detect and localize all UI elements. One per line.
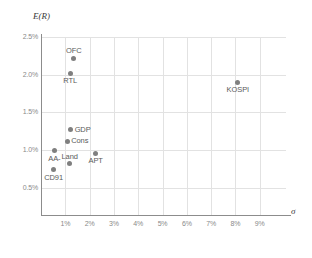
data-point[interactable] [71,56,76,61]
gridline-horizontal [41,112,286,113]
y-axis-tick-label: 0.5% [23,184,38,191]
data-point[interactable] [51,167,56,172]
x-axis-tick-label: 3% [102,220,126,227]
x-axis-tick-label: 4% [126,220,150,227]
data-point-label: RTL [63,76,77,85]
x-axis-line [41,215,291,216]
data-point[interactable] [235,80,240,85]
gridline-horizontal [41,188,286,189]
x-axis-tick-label: 5% [151,220,175,227]
data-point-label: OFC [66,46,82,55]
y-axis-tick-label: 1.5% [23,108,38,115]
x-axis-tick-label: 8% [223,220,247,227]
y-axis-line [41,34,42,216]
x-axis-tick-label: 1% [53,220,77,227]
gridline-horizontal [41,37,286,38]
y-axis-tick-label: 1.0% [23,146,38,153]
x-axis-ticks: 1%2%3%4%5%6%7%8%9% [0,220,312,234]
data-point-label: AA- [48,154,60,163]
data-point-label: Land [62,152,78,161]
y-axis-tick-label: 2.0% [23,71,38,78]
gridline-horizontal [41,75,286,76]
data-point[interactable] [68,71,73,76]
data-point-label: Cons [71,136,88,145]
data-point-label: KOSPI [227,85,249,94]
data-point[interactable] [68,127,73,132]
x-axis-tick-label: 9% [248,220,272,227]
data-point-label: CD91 [44,173,63,182]
data-point[interactable] [52,148,57,153]
x-axis-title: σ [291,206,295,216]
data-point-label: GDP [75,125,91,134]
plot-area: OFCRTLKOSPIGDPConsAA-APTLandCD91 [41,37,286,215]
scatter-chart: E(R) σ OFCRTLKOSPIGDPConsAA-APTLandCD91 … [0,0,312,258]
data-point-label: APT [89,156,103,165]
y-axis-tick-label: 2.5% [23,33,38,40]
data-point[interactable] [67,161,72,166]
data-point[interactable] [65,139,70,144]
data-point[interactable] [93,151,98,156]
x-axis-tick-label: 7% [199,220,223,227]
x-axis-tick-label: 6% [175,220,199,227]
x-axis-tick-label: 2% [78,220,102,227]
